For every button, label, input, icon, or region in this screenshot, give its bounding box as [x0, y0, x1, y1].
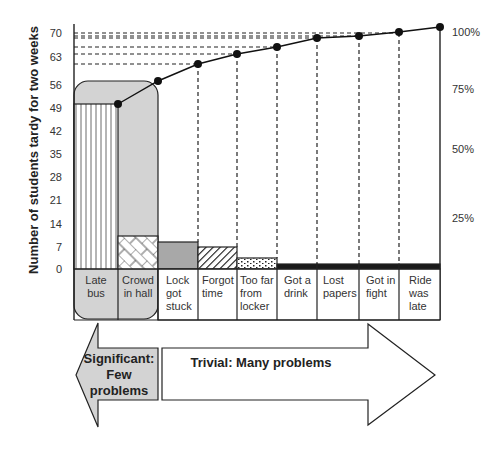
svg-text:49: 49 — [50, 102, 62, 114]
svg-text:14: 14 — [50, 218, 62, 230]
svg-text:papers: papers — [323, 287, 357, 299]
svg-text:problems: problems — [90, 383, 149, 398]
pareto-chart: Number of students tardy for two weeks 0… — [0, 0, 498, 451]
svg-text:in hall: in hall — [124, 287, 153, 299]
svg-text:Lost: Lost — [323, 274, 344, 286]
svg-text:7: 7 — [56, 241, 62, 253]
svg-text:Trivial: Many problems: Trivial: Many problems — [191, 355, 332, 370]
svg-text:42: 42 — [50, 125, 62, 137]
svg-text:was: was — [408, 287, 429, 299]
significant-arrow: Significant: Few problems — [76, 323, 158, 427]
svg-text:100%: 100% — [452, 26, 480, 38]
svg-text:stuck: stuck — [166, 300, 192, 312]
svg-text:Lock: Lock — [166, 274, 190, 286]
bar-too-far-from-locker — [237, 258, 277, 269]
svg-text:56: 56 — [50, 79, 62, 91]
svg-text:70: 70 — [50, 27, 62, 39]
svg-text:50%: 50% — [452, 143, 474, 155]
svg-text:Significant:: Significant: — [84, 351, 155, 366]
y-axis-label: Number of students tardy for two weeks — [26, 26, 41, 274]
svg-text:Forgot: Forgot — [202, 274, 234, 286]
svg-text:bus: bus — [87, 287, 105, 299]
svg-text:75%: 75% — [452, 83, 474, 95]
y2-axis-ticks: 25% 50% 75% 100% — [452, 26, 480, 224]
svg-text:Got a: Got a — [284, 274, 312, 286]
svg-text:28: 28 — [50, 171, 62, 183]
bar-crowd-in-hall — [118, 236, 158, 269]
svg-text:fight: fight — [366, 287, 387, 299]
svg-text:0: 0 — [56, 263, 62, 275]
trivial-arrow: Trivial: Many problems — [162, 324, 435, 425]
svg-text:Got in: Got in — [366, 274, 395, 286]
svg-text:locker: locker — [240, 300, 270, 312]
bar-lost-papers — [317, 264, 359, 269]
bar-late-bus — [74, 104, 118, 269]
bar-got-in-fight — [359, 264, 399, 269]
svg-text:Ride: Ride — [409, 274, 432, 286]
svg-text:drink: drink — [284, 287, 308, 299]
svg-text:got: got — [166, 287, 181, 299]
svg-text:63: 63 — [50, 51, 62, 63]
svg-text:21: 21 — [50, 194, 62, 206]
svg-text:time: time — [202, 287, 223, 299]
bar-ride-was-late — [399, 264, 440, 269]
svg-text:Late: Late — [85, 274, 106, 286]
bar-forgot-time — [198, 247, 237, 269]
y-axis-ticks: 0 7 14 21 28 35 42 49 56 63 70 — [50, 27, 62, 275]
bar-lock-got-stuck — [158, 242, 198, 269]
svg-text:Too far: Too far — [240, 274, 274, 286]
svg-text:Few: Few — [106, 367, 132, 382]
svg-text:late: late — [409, 300, 427, 312]
svg-text:25%: 25% — [452, 212, 474, 224]
svg-text:35: 35 — [50, 148, 62, 160]
svg-text:Crowd: Crowd — [122, 274, 154, 286]
svg-text:from: from — [240, 287, 262, 299]
bar-got-a-drink — [277, 264, 317, 269]
